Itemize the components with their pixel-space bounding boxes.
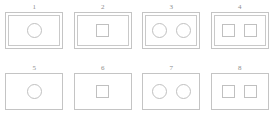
panel-label: 2 — [101, 3, 105, 12]
panel-frame-inner — [6, 74, 62, 109]
panel-cell: 3 — [137, 0, 206, 61]
panel-grid: 12345678 — [0, 0, 274, 122]
panel-cell: 5 — [0, 61, 69, 122]
circle-shape-icon — [27, 84, 42, 99]
panel-label: 3 — [169, 3, 173, 12]
panel-frame-single — [142, 73, 200, 110]
panel-cell: 2 — [69, 0, 138, 61]
panel-cell: 6 — [69, 61, 138, 122]
panel-cell: 7 — [137, 61, 206, 122]
panel-frame-double — [5, 12, 63, 49]
panel-frame-inner — [75, 74, 131, 109]
panel-frame-inner — [8, 15, 60, 46]
panel-frame-double — [211, 12, 269, 49]
panel-frame-single — [5, 73, 63, 110]
panel-label: 6 — [101, 64, 105, 73]
panel-frame-double — [142, 12, 200, 49]
figure-panel-grid: 12345678 — [0, 0, 274, 123]
circle-shape-icon — [27, 23, 42, 38]
panel-frame-inner — [143, 74, 199, 109]
panel-label: 7 — [169, 64, 173, 73]
panel-frame-single — [211, 73, 269, 110]
circle-shape-icon — [152, 84, 167, 99]
panel-cell: 4 — [206, 0, 275, 61]
square-shape-icon — [244, 85, 257, 98]
panel-cell: 8 — [206, 61, 275, 122]
square-shape-icon — [244, 24, 257, 37]
panel-label: 4 — [238, 3, 242, 12]
panel-frame-inner — [214, 15, 266, 46]
panel-label: 1 — [32, 3, 36, 12]
panel-label: 8 — [238, 64, 242, 73]
square-shape-icon — [222, 85, 235, 98]
panel-frame-inner — [212, 74, 268, 109]
square-shape-icon — [96, 24, 109, 37]
panel-frame-inner — [77, 15, 129, 46]
square-shape-icon — [222, 24, 235, 37]
panel-frame-double — [74, 12, 132, 49]
panel-frame-inner — [145, 15, 197, 46]
panel-cell: 1 — [0, 0, 69, 61]
square-shape-icon — [96, 85, 109, 98]
panel-frame-single — [74, 73, 132, 110]
circle-shape-icon — [176, 84, 191, 99]
panel-label: 5 — [32, 64, 36, 73]
circle-shape-icon — [152, 23, 167, 38]
circle-shape-icon — [176, 23, 191, 38]
